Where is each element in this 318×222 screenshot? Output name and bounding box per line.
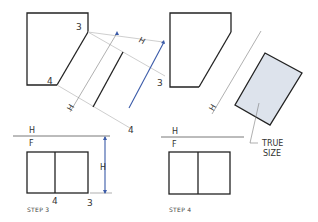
step3-aux-reference-line	[70, 33, 117, 112]
step4-true-size-face	[235, 53, 302, 125]
step3-top-point-3: 3	[76, 22, 82, 32]
step4-callout-true: TRUE	[261, 139, 283, 148]
step3-front-point-3: 3	[87, 198, 93, 208]
step4-top-view-outline	[170, 13, 231, 87]
step4-aux-dim-h: H	[207, 103, 218, 113]
step3-ref-f: F	[29, 139, 34, 148]
step4-panel: H TRUE SIZE H F STEP 4	[161, 13, 302, 213]
step3-front-arrow-bottom	[103, 190, 107, 194]
step3-front-dim-h: H	[100, 163, 106, 172]
step3-aux-depth-line	[129, 42, 164, 108]
step4-front-view	[169, 152, 230, 194]
step4-inclined-edge	[199, 32, 231, 87]
step4-ref-h: H	[172, 127, 178, 136]
step3-front-arrow-top	[103, 136, 107, 140]
step4-callout-size: SIZE	[263, 149, 281, 158]
step3-aux-point-3: 3	[157, 78, 163, 88]
step3-top-point-4: 4	[47, 76, 53, 86]
step3-caption: STEP 3	[27, 206, 49, 213]
step3-aux-point-4: 4	[128, 125, 134, 135]
step3-aux-edge	[93, 52, 123, 107]
step3-inclined-edge	[57, 32, 88, 85]
step3-projection-line-3b	[88, 32, 165, 76]
step4-ref-f: F	[172, 140, 177, 149]
step3-front-point-4: 4	[52, 196, 58, 206]
step3-panel: 3 4 H H 3 4 H F 4 3 H STEP 3	[13, 13, 165, 213]
step3-front-view	[27, 152, 88, 193]
step3-ref-h: H	[29, 126, 35, 135]
orthographic-drawing: 3 4 H H 3 4 H F 4 3 H STEP 3	[0, 0, 318, 222]
step4-caption: STEP 4	[169, 206, 191, 213]
step3-projection-line-3	[88, 32, 163, 42]
